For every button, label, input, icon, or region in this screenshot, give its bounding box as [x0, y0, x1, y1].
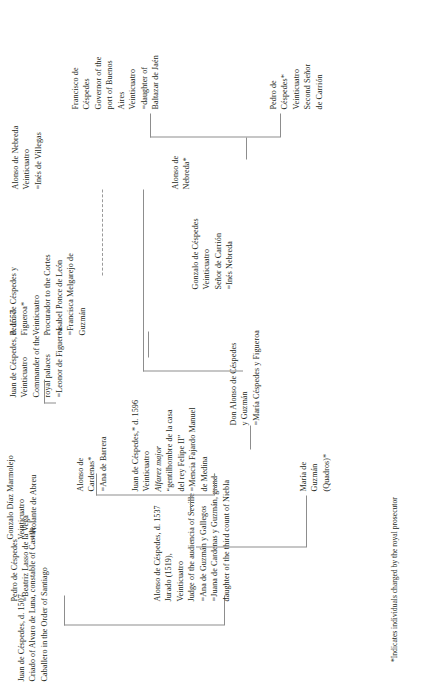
node-line: Second Señor: [302, 0, 313, 109]
connector-v-gen1: [64, 624, 224, 625]
node-line: =Isabel Ponce de León: [54, 175, 65, 335]
chart-root: Juan de Céspedes, d. 1507Criado of Alvar…: [0, 0, 438, 687]
node-line: Aires: [116, 0, 127, 109]
connector-h-nebreda-descent: [143, 189, 144, 371]
connector-h-pedro-figueroa: [148, 331, 149, 357]
node-line: Alonso de: [75, 381, 86, 491]
node-line: Veinticuatro: [127, 0, 138, 109]
node-line: Veinticuatro: [21, 59, 32, 189]
node-gonzalo-diaz-marmolejo: Gonzalo Díaz MarmolejoVeinticuatro=Viola…: [5, 389, 39, 539]
node-line: Caballero in the Order of Santiago: [39, 441, 50, 681]
node-alonso-de-nebreda: Alonso de NebredaVeinticuatro=Inés de Vi…: [10, 59, 44, 189]
node-pedro-cespedes-carrion: Pedro deCéspedes*VeinticuatroSecond Seño…: [268, 0, 325, 109]
node-line: Céspedes: [81, 0, 92, 109]
node-line: “gentilhombre de la casa: [164, 341, 175, 491]
node-line: del rey Felipe II”: [176, 341, 187, 491]
connector-h-gen2-maria: [306, 495, 307, 547]
connector-h-don-alonso: [250, 425, 251, 449]
node-line: =daughter of: [139, 0, 150, 109]
node-line: de Carrión: [314, 0, 325, 109]
connector-v-gen2: [196, 546, 306, 547]
connector-h-francisco: [150, 113, 151, 137]
node-line: Pedro de: [268, 0, 279, 109]
connector-h-gen3-cardenas: [96, 473, 97, 495]
connector-v-marmolejo: [44, 402, 56, 403]
node-line: Guzmán: [77, 175, 88, 335]
node-line: Gonzalo Díaz Marmolejo: [5, 389, 16, 539]
node-maria-de-guzman: María deGuzmán(Quadros)*: [298, 421, 332, 491]
node-line: Alonso de Nebreda: [10, 59, 21, 189]
node-alonso-de-cardenas: Alonso deCardenas*=Ana de Barrera: [75, 381, 109, 491]
node-line: =Ana de Barrera: [98, 381, 109, 491]
node-line: (Quadros)*: [321, 421, 332, 491]
node-line: Baltazar de Jaén: [150, 0, 161, 109]
node-line: =Francisca Melgarejo de: [65, 175, 76, 335]
node-line: Francisco de: [70, 0, 81, 109]
node-line: de Medina: [199, 341, 210, 491]
node-line: port of Buenos: [104, 0, 115, 109]
node-line: María de: [298, 421, 309, 491]
connector-v-gen3: [96, 494, 214, 495]
connector-h-gen1-pedro: [64, 595, 65, 625]
footnote: *Indicates individuals charged by the ro…: [390, 497, 399, 662]
connector-v-carrion: [150, 136, 280, 137]
node-line: Governor of the: [93, 0, 104, 109]
node-pedro-cespedes-figueroa: Pedro de Céspedes yFigueroa*Veinticuatro…: [8, 175, 88, 335]
node-line: Figueroa*: [19, 175, 30, 335]
node-line: Señor de Carrión: [213, 159, 224, 289]
node-line: =Inés de Villegas: [33, 59, 44, 189]
node-line: Céspedes*: [279, 0, 290, 109]
node-line: Pedro de Céspedes y: [8, 175, 19, 335]
node-line: Veinticuatro: [291, 0, 302, 109]
node-line: =María Céspedes y Figueroa: [251, 265, 262, 425]
node-line: Procurador to the Cortes: [42, 175, 53, 335]
node-line: Juan de Céspedes,* d. 1596: [130, 341, 141, 491]
node-line: y Guzmán: [239, 265, 250, 425]
connector-h-gen3-juan: [214, 473, 215, 495]
node-line: Veinticuatro: [16, 389, 27, 539]
connector-h-marmolejo: [44, 379, 45, 403]
node-line: Alfarez major: [153, 341, 164, 491]
node-line: Veinticuatro: [201, 159, 212, 289]
node-line: =Violante de Abreu: [28, 389, 39, 539]
connector-h-pedro-carrion: [280, 113, 281, 137]
node-line: Alonso de: [170, 89, 181, 189]
node-line: Gonzalo de Céspedes: [190, 159, 201, 289]
connector-v-nebreda-descent: [143, 370, 243, 371]
connector-h-gen3-stem: [190, 494, 191, 512]
node-line: Veinticuatro: [31, 175, 42, 335]
connector-h-gonzalo-stem: [246, 137, 247, 159]
node-line: daughter of the third count of Niebla: [221, 401, 232, 601]
node-gonzalo-de-cespedes: Gonzalo de CéspedesVeinticuatroSeñor de …: [190, 159, 236, 289]
node-line: =Juana de Cardenas y Guzmán, grand-: [209, 401, 220, 601]
genealogy-canvas: Juan de Céspedes, d. 1507Criado of Alvar…: [0, 0, 438, 687]
node-line: =Inés Nebreda: [224, 159, 235, 289]
connector-dashed-nebreda: [102, 189, 103, 275]
node-francisco-de-cespedes: Francisco deCéspedesGovernor of theport …: [70, 0, 162, 109]
node-line: =Mencia Fajardo Manuel: [187, 341, 198, 491]
node-line: Guzmán: [309, 421, 320, 491]
